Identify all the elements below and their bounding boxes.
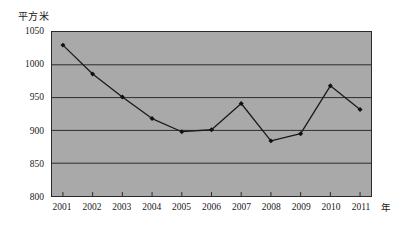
data-line (63, 45, 360, 141)
line-chart: 平方米 80085090095010001050 200120022003200… (0, 0, 403, 230)
y-tick-label: 850 (0, 159, 44, 169)
x-axis-title: 年 (381, 200, 391, 214)
x-tick-label: 2001 (45, 202, 79, 212)
x-tick-label: 2006 (195, 202, 229, 212)
x-tick-label: 2008 (254, 202, 288, 212)
x-tick-label: 2003 (105, 202, 139, 212)
x-tick-label: 2009 (284, 202, 318, 212)
x-tick-label: 2005 (165, 202, 199, 212)
x-tick-label: 2011 (344, 202, 378, 212)
y-axis-title: 平方米 (18, 8, 49, 23)
y-tick-label: 950 (0, 92, 44, 102)
plot-area (51, 31, 372, 197)
data-point-markers (60, 43, 362, 144)
y-tick-label: 900 (0, 126, 44, 136)
x-tick-label: 2004 (135, 202, 169, 212)
y-tick-label: 800 (0, 192, 44, 202)
plot-svg (52, 32, 371, 196)
x-tick-label: 2007 (224, 202, 258, 212)
y-tick-label: 1000 (0, 59, 44, 69)
x-axis-tick-marks (63, 192, 360, 196)
x-tick-label: 2010 (314, 202, 348, 212)
y-tick-label: 1050 (0, 26, 44, 36)
x-tick-label: 2002 (75, 202, 109, 212)
